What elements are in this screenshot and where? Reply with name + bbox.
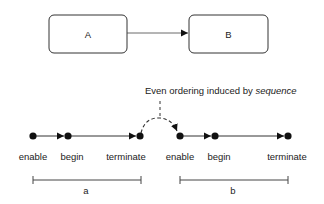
box-b: B — [189, 15, 268, 53]
node-b-terminate — [284, 132, 291, 139]
label-a-begin: begin — [60, 151, 83, 162]
box-b-label: B — [225, 29, 231, 40]
label-b-begin: begin — [207, 151, 230, 162]
node-a-enable — [29, 132, 36, 139]
node-a-terminate — [136, 132, 143, 139]
span-b: b — [180, 176, 288, 196]
ordering-dashed-arc — [141, 118, 177, 133]
label-a-terminate: terminate — [106, 151, 146, 162]
ordering-annotation: Even ordering induced by sequence — [145, 85, 297, 96]
box-a: A — [49, 15, 127, 53]
label-b-terminate: terminate — [267, 151, 307, 162]
span-a-label: a — [83, 185, 89, 196]
span-a: a — [33, 176, 141, 196]
box-a-label: A — [85, 29, 92, 40]
label-a-enable: enable — [19, 151, 48, 162]
sequence-diagram: A B Even ordering induced by sequence en… — [0, 0, 324, 204]
node-a-begin — [64, 132, 71, 139]
node-b-enable — [176, 132, 183, 139]
node-b-begin — [211, 132, 218, 139]
span-b-label: b — [230, 185, 235, 196]
label-b-enable: enable — [166, 151, 195, 162]
